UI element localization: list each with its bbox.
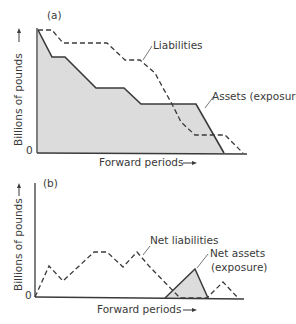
net-liabilities-label: Net liabilities (150, 234, 218, 246)
x-arrowhead-a (192, 161, 197, 165)
x-axis-label-b: Forward periods (97, 303, 181, 315)
panel-b-label: (b) (43, 177, 58, 189)
x-arrowhead-b (192, 308, 197, 312)
net-liabilities-leader (143, 246, 150, 255)
liabilities-label: Liabilities (153, 39, 203, 51)
net-assets-leader (197, 254, 208, 268)
x-axis-a (37, 153, 247, 154)
y-axis-label-b: Billions of pounds (12, 198, 24, 291)
liabilities-leader (143, 46, 152, 60)
zero-label-a: 0 (26, 144, 33, 156)
y-axis-label-a: Billions of pounds (12, 53, 24, 146)
x-axis-b (35, 297, 244, 299)
net-assets-label-line2: (exposure) (211, 261, 267, 273)
assets-label: Assets (exposure) (212, 90, 296, 102)
zero-label-b: 0 (25, 289, 32, 301)
y-arrowhead-b (17, 183, 21, 188)
net-assets-label-line1: Net assets (210, 247, 265, 259)
figure: (a) Billions of pounds 0 Forward periods… (0, 0, 296, 324)
x-axis-label-a: Forward periods (99, 156, 183, 168)
y-arrowhead-a (17, 28, 21, 33)
net-liabilities-line (35, 252, 238, 298)
panel-a-label: (a) (47, 9, 62, 21)
